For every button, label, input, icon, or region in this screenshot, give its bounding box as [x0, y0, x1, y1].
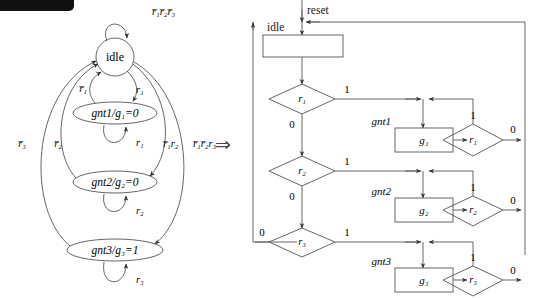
implication-arrow: ⇒: [215, 134, 231, 155]
edge-label-idle-gnt2: r̅₁r₂: [162, 138, 179, 149]
edge-gnt3-idle: [41, 61, 96, 246]
branch-false-label-r3: 0: [259, 226, 265, 238]
decision-label-r2: r₂: [298, 165, 306, 176]
state-label-gnt2: gnt2/g₂=0: [92, 176, 139, 189]
selfloop-gnt3: [104, 262, 126, 282]
edge-label-gnt3-idle: r̅₃: [17, 138, 26, 149]
wait-label-r3: r₃: [469, 274, 477, 285]
branch-false-label-r1: 0: [289, 118, 295, 130]
wait-false-label-r3: 0: [510, 264, 516, 276]
wait-true-label-r2: 1: [470, 181, 476, 193]
reset-label: reset: [307, 4, 330, 16]
decision-label-r3: r₃: [298, 236, 306, 247]
selfloop-label-gnt3: r₃: [136, 274, 144, 285]
wait-label-r1: r₁: [469, 134, 477, 145]
branch-true-label-r3: 1: [344, 226, 350, 238]
flowchart: reset idle r₁ 1 0 gnt1 g₁ r₁ 1 0 r₂ 1 0 …: [245, 0, 535, 298]
idle-label: idle: [267, 21, 284, 33]
selfloop-label-idle: r̅₁r̅₂r̅₃: [151, 6, 175, 17]
edge-label-gnt1-idle: r̅₁: [78, 83, 87, 94]
implication-arrow-wrap: ⇒: [208, 130, 238, 160]
state-label-gnt1: gnt1/g₁=0: [92, 107, 139, 120]
wait-true-label-r3: 1: [470, 251, 476, 263]
selfloop-label-gnt2: r₂: [136, 205, 144, 216]
wait-false-label-r2: 0: [510, 194, 516, 206]
wait-false-label-r1: 0: [510, 123, 516, 135]
wait-true-label-r1: 1: [470, 109, 476, 121]
selfloop-label-gnt1: r₁: [136, 137, 144, 148]
selfloop-gnt2: [104, 194, 126, 212]
branch-true-label-r1: 1: [344, 83, 350, 95]
edge-gnt2-idle: [61, 64, 98, 178]
figure-root: idle gnt1/g₁=0 gnt2/g₂=0 gnt3/g₃=1 r̅₁r̅…: [0, 0, 535, 298]
state-diagram: idle gnt1/g₁=0 gnt2/g₂=0 gnt3/g₃=1 r̅₁r̅…: [0, 0, 230, 298]
idle-state-box: [263, 35, 343, 57]
edge-idle-gnt2: [133, 64, 165, 176]
left-rail: [253, 22, 297, 242]
edge-label-idle-gnt1: r₁: [136, 84, 144, 95]
branch-true-label-r2: 1: [344, 155, 350, 167]
action-box-label-g3: g₃: [419, 274, 429, 286]
action-label-gnt3: gnt3: [371, 255, 391, 267]
action-label-gnt2: gnt2: [371, 185, 391, 197]
decision-label-r1: r₁: [298, 93, 306, 104]
action-box-label-g2: g₂: [419, 204, 429, 216]
wait-label-r2: r₂: [469, 204, 477, 215]
state-label-gnt3: gnt3/g₃=1: [92, 244, 139, 257]
action-box-label-g1: g₁: [419, 134, 429, 146]
edge-label-gnt2-idle: r̅₂: [53, 138, 62, 149]
action-label-gnt1: gnt1: [371, 115, 391, 127]
state-label-idle: idle: [106, 50, 124, 64]
edge-gnt1-idle: [90, 72, 101, 103]
selfloop-gnt1: [104, 125, 126, 143]
branch-false-label-r2: 0: [289, 190, 295, 202]
